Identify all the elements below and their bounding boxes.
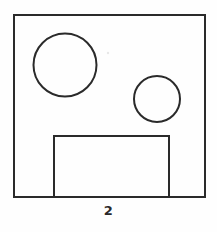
technical-drawing-figure: 2 [0,0,217,232]
drawing-canvas [0,0,217,232]
speck-artifact-icon [107,52,109,54]
figure-caption-label: 2 [0,203,217,219]
